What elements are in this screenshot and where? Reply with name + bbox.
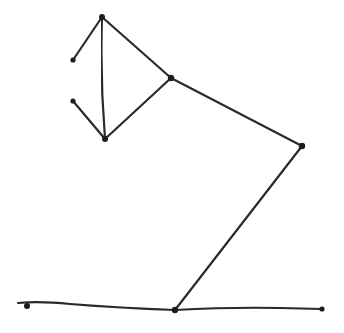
shade-left-upper-node bbox=[70, 57, 75, 62]
shade-bottom-edge bbox=[105, 78, 171, 139]
lamp-sketch-diagram bbox=[0, 0, 344, 333]
shade-top-edge bbox=[102, 17, 171, 78]
lower-arm bbox=[175, 146, 302, 310]
ground-right-node bbox=[319, 306, 324, 311]
ground-left-node bbox=[24, 303, 30, 309]
ground-line bbox=[18, 302, 322, 310]
shade-left-edge-upper bbox=[73, 17, 102, 60]
head-joint-node bbox=[168, 75, 174, 81]
elbow-joint-node bbox=[299, 143, 305, 149]
shade-left-lower-node bbox=[70, 98, 75, 103]
base-joint-node bbox=[172, 307, 178, 313]
shade-bottom-node bbox=[102, 136, 108, 142]
shade-top-node bbox=[99, 14, 105, 20]
upper-arm bbox=[171, 78, 302, 146]
shade-rim bbox=[101, 17, 105, 139]
shade-left-edge-lower bbox=[73, 101, 105, 139]
